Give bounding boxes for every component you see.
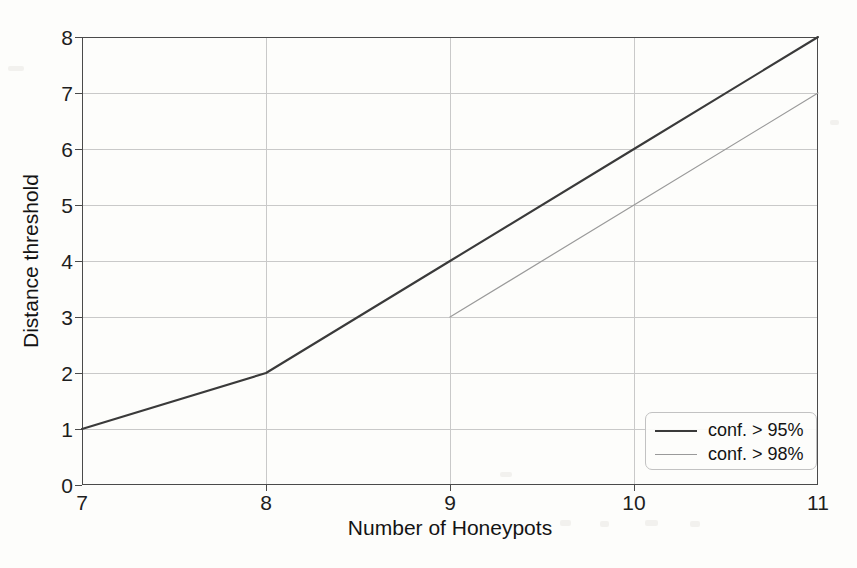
x-tick-label: 8 xyxy=(260,492,272,513)
legend: conf. > 95% conf. > 98% xyxy=(645,412,817,470)
y-tick-mark xyxy=(75,317,82,318)
y-tick-label: 0 xyxy=(61,475,73,496)
y-tick-label: 5 xyxy=(61,195,73,216)
data-series-line xyxy=(82,37,818,429)
legend-item-conf-98[interactable]: conf. > 98% xyxy=(655,442,816,466)
y-tick-label: 6 xyxy=(61,139,73,160)
y-tick-label: 2 xyxy=(61,363,73,384)
y-tick-mark xyxy=(75,93,82,94)
y-tick-label: 7 xyxy=(61,83,73,104)
legend-item-conf-95[interactable]: conf. > 95% xyxy=(655,418,816,442)
y-tick-mark xyxy=(75,485,82,486)
x-tick-label: 9 xyxy=(444,492,456,513)
y-tick-mark xyxy=(75,261,82,262)
y-axis-title: Distance threshold xyxy=(14,37,48,485)
y-tick-label: 8 xyxy=(61,27,73,48)
chart-figure: Distance threshold Number of Honeypots 0… xyxy=(0,0,857,568)
y-tick-mark xyxy=(75,429,82,430)
legend-swatch-conf-98 xyxy=(655,448,697,460)
legend-label-conf-95: conf. > 95% xyxy=(708,420,804,441)
y-tick-mark xyxy=(75,149,82,150)
legend-label-conf-98: conf. > 98% xyxy=(708,444,804,465)
scan-artifact xyxy=(830,120,839,125)
y-tick-label: 4 xyxy=(61,251,73,272)
y-tick-mark xyxy=(75,37,82,38)
y-tick-label: 1 xyxy=(61,419,73,440)
x-axis-title: Number of Honeypots xyxy=(82,516,818,540)
x-tick-label: 10 xyxy=(622,492,645,513)
y-tick-mark xyxy=(75,205,82,206)
x-tick-label: 11 xyxy=(807,492,829,513)
y-tick-label: 3 xyxy=(61,307,73,328)
x-tick-label: 7 xyxy=(76,492,88,513)
data-series-line xyxy=(450,93,818,317)
legend-swatch-conf-95 xyxy=(655,424,697,436)
y-tick-mark xyxy=(75,373,82,374)
